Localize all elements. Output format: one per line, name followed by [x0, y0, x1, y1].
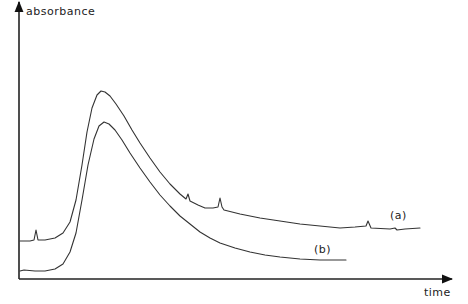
curve-a-label: (a) — [390, 209, 407, 222]
curve-a — [20, 91, 420, 241]
x-axis-label: time — [424, 286, 451, 299]
y-axis-label: absorbance — [26, 5, 95, 18]
curve-b-label: (b) — [314, 243, 331, 256]
absorbance-time-chart: absorbance time (a) (b) — [0, 0, 468, 304]
